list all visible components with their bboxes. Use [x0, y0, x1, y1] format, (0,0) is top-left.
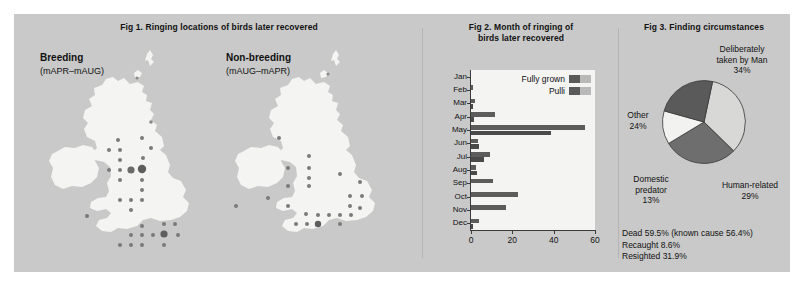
fig2-ytick-mark: [467, 210, 471, 211]
fig2-xtick-label-20: 20: [508, 235, 517, 245]
fig2-xtick-label-0: 0: [469, 235, 474, 245]
fig1-title: Fig 1. Ringing locations of birds later …: [34, 22, 404, 33]
fig2-bar-may-pulli: [471, 131, 551, 136]
fig3-pie-chart: Fig 3. Finding circumstances Deliberatel…: [618, 14, 790, 272]
fig2-bar-dec-pulli: [471, 224, 473, 229]
fig2-bar-dec-fully-grown: [471, 219, 479, 224]
fig2-ytick-aug: Aug: [453, 165, 467, 175]
pie-label-man-l2: taken by Man: [716, 55, 767, 65]
fig2-ytick-mar: Mar: [453, 98, 467, 108]
pie-label-deliberately-taken-by-man: Deliberately taken by Man 34%: [694, 44, 790, 76]
fig2-ytick-mark: [467, 77, 471, 78]
pie-label-human-related: Human-related 29%: [710, 180, 790, 201]
pie-svg: [658, 76, 750, 168]
fig2-legend-label: Pulli: [549, 86, 565, 96]
fig2-xtick-mark: [471, 230, 472, 234]
fig2-ytick-mark: [467, 143, 471, 144]
fig2-legend: Fully grownPulli: [518, 72, 593, 98]
fig2-plot-area: Fully grownPulli JanFebMarAprMayJunJulAu…: [470, 70, 595, 231]
fig2-ytick-nov: Nov: [453, 205, 467, 215]
fig2-bar-may-fully-grown: [471, 125, 585, 130]
map-breeding-svg: [30, 48, 216, 266]
pie-label-dom-l1: Domestic: [633, 174, 668, 184]
map-nonbreeding: [216, 48, 402, 266]
fig2-ytick-mark: [467, 170, 471, 171]
fig2-ytick-mark: [467, 197, 471, 198]
pie-label-other: Other 24%: [618, 110, 658, 131]
fig2-bar-jul-pulli: [471, 157, 484, 162]
fig2-bar-apr-fully-grown: [471, 112, 495, 117]
fig2-ytick-jul: Jul: [457, 152, 467, 162]
fig2-ytick-apr: Apr: [455, 112, 467, 122]
fig2-xtick-mark: [595, 230, 596, 234]
pie-label-man-l1: Deliberately: [720, 44, 765, 54]
fig2-ytick-mark: [467, 157, 471, 158]
fig2-bar-mar-fully-grown: [471, 99, 475, 104]
pie-label-human-l1: Human-related: [722, 180, 778, 190]
landmass-nonbreeding: [235, 50, 375, 232]
fig2-ytick-dec: Dec: [453, 218, 467, 228]
fig3-title: Fig 3. Finding circumstances: [618, 22, 790, 33]
pie-label-dom-value: 13%: [642, 195, 659, 205]
fig2-bar-aug-pulli: [471, 171, 477, 176]
fig2-bar-nov-fully-grown: [471, 205, 506, 210]
fig2-bar-apr-pulli: [471, 117, 474, 122]
map-breeding: [30, 48, 216, 266]
pie-label-human-value: 29%: [741, 191, 758, 201]
fig2-xtick-mark: [512, 230, 513, 234]
fig2-ytick-feb: Feb: [453, 85, 467, 95]
fig2-ytick-mark: [467, 183, 471, 184]
fig2-bar-aug-fully-grown: [471, 165, 476, 170]
pie-label-other-value: 24%: [629, 121, 646, 131]
fig2-ytick-oct: Oct: [455, 192, 467, 202]
figure-panel: Fig 1. Ringing locations of birds later …: [14, 14, 790, 272]
fig2-ytick-mark: [467, 117, 471, 118]
map-nonbreeding-svg: [216, 48, 402, 266]
pie-label-man-value: 34%: [733, 65, 750, 75]
fig2-ytick-jun: Jun: [454, 138, 467, 148]
fig3-note-1: Recaught 8.6%: [622, 240, 753, 252]
fig2-title-line2: birds later recovered: [478, 33, 564, 43]
fig2-title: Fig 2. Month of ringing of birds later r…: [426, 22, 616, 44]
fig2-legend-item: Fully grown: [522, 74, 591, 84]
fig2-bar-jul-fully-grown: [471, 152, 490, 157]
fig2-legend-label: Fully grown: [522, 74, 565, 84]
fig2-ytick-mark: [467, 90, 471, 91]
fig2-ytick-mark: [467, 103, 471, 104]
fig2-legend-item: Pulli: [522, 86, 591, 96]
fig3-notes: Dead 59.5% (known cause 56.4%)Recaught 8…: [622, 228, 753, 263]
fig1-maps: Fig 1. Ringing locations of birds later …: [14, 14, 422, 272]
fig2-ytick-mark: [467, 130, 471, 131]
fig2-xtick-label-60: 60: [590, 235, 599, 245]
fig2-bar-sep-fully-grown: [471, 179, 493, 184]
fig3-note-2: Resighted 31.9%: [622, 251, 753, 263]
pie-label-dom-l2: predator: [635, 185, 667, 195]
figure-root: Fig 1. Ringing locations of birds later …: [0, 0, 806, 289]
fig2-xtick-label-40: 40: [549, 235, 558, 245]
fig2-bar-oct-fully-grown: [471, 192, 518, 197]
fig2-bar-jun-pulli: [471, 144, 479, 149]
fig2-ytick-sep: Sep: [453, 178, 467, 188]
fig2-xtick-mark: [554, 230, 555, 234]
pie-chart: [658, 76, 750, 168]
fig2-bar-mar-pulli: [471, 104, 473, 109]
fig2-bar-feb-fully-grown: [471, 85, 473, 90]
fig2-title-line1: Fig 2. Month of ringing of: [469, 22, 574, 32]
fig3-note-0: Dead 59.5% (known cause 56.4%): [622, 228, 753, 240]
pie-label-domestic-predator: Domestic predator 13%: [618, 174, 684, 206]
fig2-ytick-mark: [467, 223, 471, 224]
fig2-legend-swatch: [569, 87, 591, 95]
fig2-ytick-may: May: [452, 125, 467, 135]
pie-label-other-l1: Other: [627, 110, 648, 120]
fig2-bar-chart: Fig 2. Month of ringing of birds later r…: [422, 14, 618, 272]
fig2-bar-jun-fully-grown: [471, 139, 478, 144]
fig2-ytick-jan: Jan: [454, 72, 467, 82]
fig2-legend-swatch: [569, 75, 591, 83]
